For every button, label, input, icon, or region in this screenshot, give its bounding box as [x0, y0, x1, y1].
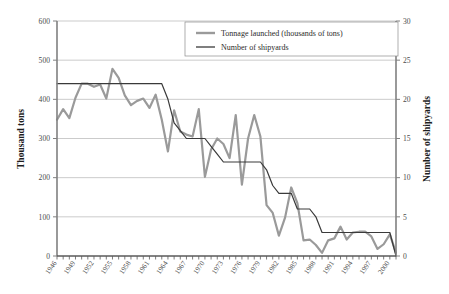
- x-tick-label: 1973: [210, 259, 225, 276]
- x-tick-label: 1979: [247, 259, 262, 276]
- left-tick-label: 0: [46, 252, 50, 261]
- x-tick-label: 1985: [284, 259, 299, 276]
- right-axis-title: Number of shipyards: [422, 96, 432, 182]
- right-tick-label: 30: [403, 17, 411, 26]
- x-tick-label: 1967: [173, 259, 188, 276]
- right-tick-label: 20: [403, 95, 411, 104]
- data-series-group: [57, 69, 396, 256]
- x-tick-label: 1946: [44, 259, 59, 276]
- x-tick-label: 1949: [62, 259, 77, 276]
- left-tick-label: 200: [39, 173, 51, 182]
- left-axis-tick-labels: 0100200300400500600: [39, 17, 51, 261]
- left-tick-label: 400: [39, 95, 51, 104]
- series-line-tonnage: [57, 69, 396, 253]
- chart-legend: Tonnage launched (thousands of tons) Num…: [185, 22, 398, 56]
- right-tick-label: 0: [403, 252, 407, 261]
- legend-label-tonnage: Tonnage launched (thousands of tons): [221, 29, 343, 38]
- right-axis-tick-labels: 051015202530: [403, 17, 411, 261]
- x-tick-label: 1997: [358, 259, 373, 276]
- right-tick-label: 5: [403, 213, 407, 222]
- x-tick-label: 1964: [155, 259, 170, 276]
- x-tick-label: 1976: [229, 259, 244, 276]
- x-tick-label: 2000: [377, 259, 392, 276]
- left-tick-label: 300: [39, 134, 51, 143]
- left-tick-label: 500: [39, 56, 51, 65]
- left-tick-label: 600: [39, 17, 51, 26]
- x-tick-label: 1994: [340, 259, 355, 276]
- right-tick-label: 15: [403, 134, 411, 143]
- x-tick-label: 1982: [266, 259, 281, 276]
- axis-ticks: [53, 21, 400, 260]
- right-tick-label: 10: [403, 173, 411, 182]
- chart-figure: 0100200300400500600 051015202530 1946194…: [0, 0, 449, 294]
- left-axis-title: Thousand tons: [16, 109, 26, 169]
- x-tick-label: 1955: [99, 259, 114, 276]
- x-tick-label: 1991: [321, 259, 336, 276]
- x-tick-label: 1958: [118, 259, 133, 276]
- x-tick-label: 1961: [136, 259, 151, 276]
- left-tick-label: 100: [39, 213, 51, 222]
- right-tick-label: 25: [403, 56, 411, 65]
- x-axis-tick-labels: 1946194919521955195819611964196719701973…: [44, 259, 392, 276]
- series-line-shipyards: [57, 84, 396, 256]
- x-tick-label: 1970: [192, 259, 207, 276]
- x-tick-label: 1952: [81, 259, 96, 276]
- x-tick-label: 1988: [303, 259, 318, 276]
- legend-label-shipyards: Number of shipyards: [221, 43, 289, 52]
- legend-box: [185, 22, 398, 56]
- line-chart: 0100200300400500600 051015202530 1946194…: [0, 0, 449, 294]
